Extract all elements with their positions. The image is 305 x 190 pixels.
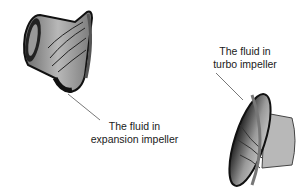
expansion-impeller-fluid — [22, 12, 92, 92]
impeller-diagram — [0, 0, 305, 190]
leader-line-expansion — [68, 94, 100, 120]
turbo-impeller-label: The fluid in turbo impeller — [205, 45, 285, 71]
label-line: The fluid in — [205, 45, 285, 58]
label-line: The fluid in — [87, 120, 182, 133]
expansion-impeller-label: The fluid in expansion impeller — [87, 120, 182, 146]
label-line: turbo impeller — [205, 58, 285, 71]
turbo-impeller-fluid — [221, 90, 295, 190]
label-line: expansion impeller — [87, 133, 182, 146]
leader-line-turbo — [216, 73, 243, 100]
